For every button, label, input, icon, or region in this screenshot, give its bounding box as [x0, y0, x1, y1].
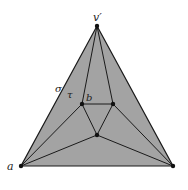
vertex-apex: [95, 24, 99, 28]
label-sigma: σ: [55, 83, 63, 94]
label-tau: τ: [67, 89, 73, 100]
label-b: b: [86, 92, 92, 103]
vertex-right: [171, 164, 175, 168]
vertex-a: [19, 164, 23, 168]
vertex-right-inner: [111, 102, 115, 106]
vertex-b: [80, 102, 84, 106]
triangulation-diagram: v′ a σ τ b: [0, 0, 188, 190]
vertex-bottom-inner: [95, 133, 99, 137]
outer-triangle-face: [21, 26, 173, 166]
label-apex: v′: [93, 11, 102, 24]
label-a: a: [7, 160, 14, 173]
